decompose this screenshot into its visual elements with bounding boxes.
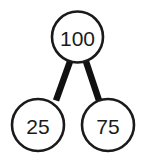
node-label-whole: 100: [60, 27, 95, 50]
node-label-part-left: 25: [26, 115, 49, 138]
edge-whole-to-left-part: [56, 62, 70, 101]
edge-whole-to-right-part: [86, 62, 99, 101]
number-bond-diagram: 100 25 75: [0, 0, 147, 165]
node-label-part-right: 75: [96, 115, 119, 138]
diagram-canvas: 100 25 75: [0, 0, 147, 165]
